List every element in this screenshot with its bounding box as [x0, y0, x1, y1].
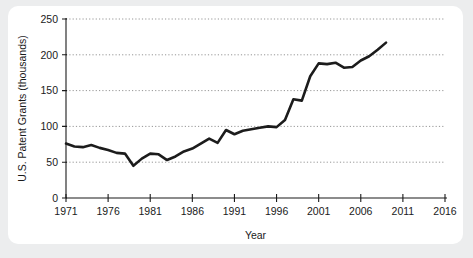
- x-tick-label-1981: 1981: [139, 205, 163, 217]
- y-tick-label-150: 150: [40, 84, 58, 96]
- line-chart: 050100150200250 197119761981198619911996…: [8, 6, 463, 244]
- gridline-group: [66, 19, 445, 162]
- x-tick-label-2006: 2006: [349, 205, 373, 217]
- y-tick-label-200: 200: [40, 49, 58, 61]
- y-tick-label-100: 100: [40, 120, 58, 132]
- x-tick-label-1971: 1971: [54, 205, 78, 217]
- x-tick-label-group: 1971197619811986199119962001200620112016: [54, 205, 457, 217]
- x-tick-label-1986: 1986: [181, 205, 205, 217]
- y-tick-label-group: 050100150200250: [40, 13, 58, 204]
- figure-root: 050100150200250 197119761981198619911996…: [0, 0, 473, 258]
- y-tick-label-250: 250: [40, 13, 58, 25]
- x-tick-label-2016: 2016: [433, 205, 457, 217]
- data-series-line: [66, 43, 386, 166]
- x-tick-label-1996: 1996: [265, 205, 289, 217]
- y-axis-title: U.S. Patent Grants (thousands): [16, 35, 28, 182]
- chart-panel: 050100150200250 197119761981198619911996…: [8, 6, 463, 244]
- x-tick-label-2001: 2001: [307, 205, 331, 217]
- x-axis-title: Year: [245, 229, 267, 241]
- x-tick-label-1991: 1991: [223, 205, 247, 217]
- y-tick-label-50: 50: [46, 156, 58, 168]
- x-tick-label-1976: 1976: [96, 205, 120, 217]
- x-tick-label-2011: 2011: [392, 205, 415, 217]
- y-tick-label-0: 0: [52, 192, 58, 204]
